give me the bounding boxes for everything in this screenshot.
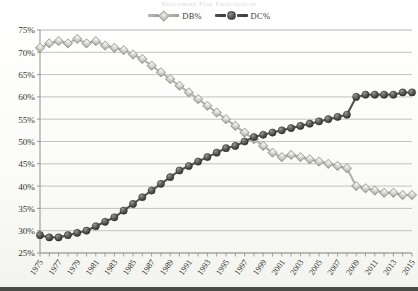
y-axis-tick-label: 60% [18, 92, 35, 102]
x-axis-tick-label: 1995 [214, 258, 231, 277]
data-point [296, 152, 305, 161]
legend-label-db: DB% [182, 11, 202, 21]
x-axis-tick-label: 2015 [400, 258, 417, 277]
legend-line-icon [168, 14, 179, 17]
series-dc [36, 89, 415, 241]
data-point [343, 111, 350, 118]
data-point [129, 200, 136, 207]
data-point [167, 174, 174, 181]
y-axis-tick-label: 50% [18, 137, 35, 147]
data-point [241, 138, 248, 145]
data-point [74, 229, 81, 236]
data-point [45, 39, 54, 48]
data-point [111, 214, 118, 221]
y-axis-tick-label: 25% [18, 248, 35, 258]
data-point [250, 133, 257, 140]
data-point [213, 149, 220, 156]
diamond-marker-icon [158, 10, 169, 21]
x-axis-tick-label: 1975 [28, 258, 45, 277]
data-point [334, 113, 341, 120]
data-point [36, 232, 43, 239]
data-point [352, 181, 361, 190]
data-point [342, 164, 351, 173]
y-axis-tick-label: 55% [18, 115, 35, 125]
data-point [139, 194, 146, 201]
y-axis-tick-label: 35% [18, 204, 35, 214]
y-axis-tick-label: 40% [18, 182, 35, 192]
data-point [46, 234, 53, 241]
data-point [297, 122, 304, 129]
data-point [55, 234, 62, 241]
data-point [314, 157, 323, 166]
data-point [128, 50, 137, 59]
circle-marker-icon [227, 11, 236, 20]
data-point [35, 43, 44, 52]
data-point [370, 186, 379, 195]
series-db [35, 34, 416, 199]
data-point [82, 39, 91, 48]
data-point [361, 184, 370, 193]
data-point [398, 190, 407, 199]
x-axis-tick-label: 1977 [47, 258, 64, 277]
y-axis-tick-label: 70% [18, 48, 35, 58]
data-point [204, 154, 211, 161]
x-axis-tick-labels: 1975197719791981198319851987198919911993… [28, 258, 417, 277]
data-point [73, 34, 82, 43]
data-point [278, 127, 285, 134]
data-point [83, 227, 90, 234]
data-point [389, 188, 398, 197]
x-axis-ticks [40, 253, 412, 257]
data-point [54, 36, 63, 45]
data-point [110, 43, 119, 52]
data-point [63, 39, 72, 48]
y-axis-tick-label: 45% [18, 159, 35, 169]
legend-line-icon [215, 14, 226, 17]
data-point [399, 89, 406, 96]
x-axis-tick-label: 2005 [307, 258, 324, 277]
data-point [306, 120, 313, 127]
legend-item-dc: DC% [215, 11, 270, 21]
plot-area: 25%30%35%40%45%50%55%60%65%70%75% 197519… [0, 22, 418, 291]
data-point [408, 89, 415, 96]
data-point [148, 187, 155, 194]
y-axis-tick-label: 65% [18, 70, 35, 80]
legend-item-db: DB% [148, 11, 202, 21]
y-axis-tick-label: 75% [18, 25, 35, 35]
data-point [92, 223, 99, 230]
x-axis-tick-label: 1997 [233, 258, 250, 277]
x-axis-tick-label: 1993 [196, 258, 213, 277]
data-point [157, 180, 164, 187]
legend-line-icon [237, 14, 248, 17]
line-chart: 25%30%35%40%45%50%55%60%65%70%75% 197519… [0, 22, 418, 291]
x-axis-tick-label: 2011 [363, 258, 380, 277]
x-axis-tick-label: 2003 [289, 258, 306, 277]
chart-legend: DB% DC% [0, 9, 418, 22]
data-point [407, 190, 416, 199]
data-point [64, 232, 71, 239]
x-axis-tick-label: 2013 [382, 258, 399, 277]
data-point [305, 155, 314, 164]
x-axis-tick-label: 1983 [103, 258, 120, 277]
data-point [91, 36, 100, 45]
data-point [269, 129, 276, 136]
x-axis-tick-label: 1979 [65, 258, 82, 277]
data-point [195, 158, 202, 165]
x-axis-tick-label: 1991 [177, 258, 194, 277]
x-axis-tick-label: 1985 [121, 258, 138, 277]
data-point [185, 162, 192, 169]
x-axis-tick-label: 1999 [251, 258, 268, 277]
data-point [222, 145, 229, 152]
legend-label-dc: DC% [251, 11, 271, 21]
x-axis-tick-label: 2007 [326, 258, 343, 277]
data-point [381, 91, 388, 98]
y-axis-tick-label: 30% [18, 226, 35, 236]
data-point [120, 207, 127, 214]
data-point [390, 91, 397, 98]
gridlines [37, 30, 412, 253]
x-axis-tick-label: 1987 [140, 258, 157, 277]
data-point [379, 188, 388, 197]
data-point [325, 116, 332, 123]
legend-line-icon [148, 14, 159, 17]
data-point [176, 167, 183, 174]
data-point [286, 150, 295, 159]
